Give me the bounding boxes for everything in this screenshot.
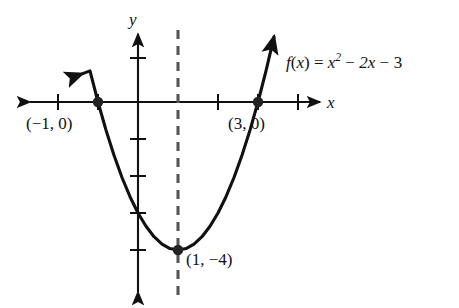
label-root-left: (−1, 0) (26, 115, 72, 132)
point-root-right (253, 97, 263, 107)
equation-term3: 3 (394, 53, 403, 72)
function-equation: f(x) = x2 − 2x − 3 (286, 52, 402, 71)
parabola-figure: y x f(x) = x2 − 2x − 3 (−1, 0) (3, 0) (1… (0, 0, 459, 308)
equation-equals: = (314, 53, 324, 72)
y-axis-label: y (129, 11, 137, 28)
equation-minus-2: − (379, 53, 389, 72)
equation-term1-exponent: 2 (335, 51, 341, 64)
label-vertex: (1, −4) (186, 251, 232, 268)
x-axis-label: x (327, 94, 335, 111)
equation-arg: x (296, 53, 304, 72)
point-vertex (173, 245, 183, 255)
point-root-left (93, 97, 103, 107)
equation-minus-1: − (345, 53, 355, 72)
equation-close-paren: ) (304, 53, 310, 72)
label-root-right: (3, 0) (228, 115, 265, 132)
equation-term2: 2x (359, 53, 375, 72)
